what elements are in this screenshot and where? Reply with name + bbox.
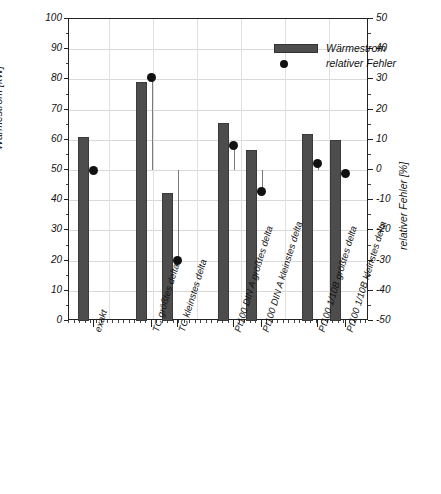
bar (302, 134, 313, 321)
x-minor-tick (129, 320, 130, 323)
legend-label-warmestrom: Wärmestrom (326, 42, 386, 54)
x-minor-tick (123, 320, 124, 323)
y-tick-label-right: -40 (376, 285, 390, 295)
y-axis-right-title: relativer Fehler [%] (397, 162, 409, 250)
y-tick-label-right: -50 (376, 315, 390, 325)
y-tick-mark-right (368, 109, 373, 110)
y-minor-tick-right (368, 214, 371, 215)
x-minor-tick (206, 320, 207, 323)
x-minor-tick (360, 320, 361, 323)
gridline-v (109, 19, 110, 319)
gridline-h (69, 79, 367, 80)
y-tick-label-left: 30 (28, 224, 62, 234)
y-tick-mark-right (368, 229, 373, 230)
y-minor-tick-right (368, 154, 371, 155)
gridline-h (69, 49, 367, 50)
error-dot (147, 73, 156, 82)
error-dot (341, 169, 350, 178)
y-tick-mark-right (368, 18, 373, 19)
x-minor-tick (200, 320, 201, 323)
bar (218, 123, 229, 321)
y-minor-tick-right (368, 33, 371, 34)
x-minor-tick (288, 320, 289, 323)
x-minor-tick (195, 320, 196, 323)
y-tick-mark-right (368, 320, 373, 321)
y-tick-mark-right (368, 199, 373, 200)
y-minor-tick-right (368, 94, 371, 95)
x-minor-tick (118, 320, 119, 323)
error-dot (89, 166, 98, 175)
x-minor-tick (365, 320, 366, 323)
error-dropline (152, 78, 153, 170)
y-tick-label-right: -30 (376, 255, 390, 265)
x-minor-tick (283, 320, 284, 323)
x-minor-tick (211, 320, 212, 323)
y-minor-tick-right (368, 184, 371, 185)
x-minor-tick (90, 320, 91, 323)
y-tick-mark-right (368, 139, 373, 140)
y-tick-label-left: 40 (28, 194, 62, 204)
y-tick-label-right: 10 (376, 134, 387, 144)
bar (78, 137, 89, 321)
chart-figure: Wärmestrom [kW] relativer Fehler [%] 010… (0, 0, 441, 494)
y-tick-label-left: 50 (28, 164, 62, 174)
legend-bar-swatch-icon (274, 44, 318, 53)
error-dot (229, 141, 238, 150)
y-tick-label-left: 20 (28, 255, 62, 265)
legend-circle-marker-icon (280, 60, 288, 68)
gridline-v (241, 19, 242, 319)
y-tick-label-right: 30 (376, 73, 387, 83)
y-tick-label-right: 50 (376, 13, 387, 23)
plot-area: Wärmestrom relativer Fehler (68, 18, 368, 320)
y-tick-label-right: 20 (376, 104, 387, 114)
y-tick-label-left: 10 (28, 285, 62, 295)
x-minor-tick (68, 320, 69, 323)
error-dropline (178, 170, 179, 261)
y-tick-label-left: 0 (28, 315, 62, 325)
y-tick-label-right: 0 (376, 164, 382, 174)
y-tick-label-right: -10 (376, 194, 390, 204)
legend-label-relativer-fehler: relativer Fehler (326, 57, 396, 69)
y-tick-label-left: 70 (28, 104, 62, 114)
y-axis-left-title: Wärmestrom [kW] (0, 66, 4, 150)
y-tick-mark-right (368, 290, 373, 291)
x-minor-tick (112, 320, 113, 323)
y-tick-label-left: 80 (28, 73, 62, 83)
y-tick-label-left: 60 (28, 134, 62, 144)
x-minor-tick (277, 320, 278, 323)
y-minor-tick-right (368, 124, 371, 125)
gridline-h (69, 110, 367, 111)
x-minor-tick (107, 320, 108, 323)
gridline-v (153, 19, 154, 319)
y-tick-mark-right (368, 78, 373, 79)
error-dot (313, 159, 322, 168)
y-tick-label-left: 90 (28, 43, 62, 53)
x-minor-tick (294, 320, 295, 323)
x-minor-tick (299, 320, 300, 323)
x-minor-tick (134, 320, 135, 323)
y-minor-tick-right (368, 305, 371, 306)
error-dot (257, 187, 266, 196)
bar (136, 82, 147, 321)
y-tick-mark-right (368, 169, 373, 170)
y-tick-label-left: 100 (28, 13, 62, 23)
x-minor-tick (74, 320, 75, 323)
